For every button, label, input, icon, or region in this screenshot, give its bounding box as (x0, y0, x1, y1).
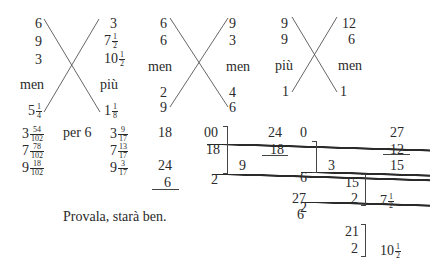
calc2-a-0: 24 (268, 126, 282, 140)
result-right-1: 71317 (110, 143, 128, 160)
cross2-right-1: 3 (229, 34, 236, 48)
cross2-left-3: 2 (160, 86, 167, 100)
calc2-b-0: 0 (300, 126, 307, 140)
cross1-left-3: men (20, 78, 44, 92)
calc2-below-0: 27 (292, 192, 306, 206)
cross3-left-3: 1 (282, 85, 289, 99)
cross2-right-2: men (226, 60, 250, 74)
cross1-right-0: 3 (110, 17, 117, 31)
calc1-bracket (223, 126, 228, 174)
result-left-1: 778102 (22, 143, 44, 160)
cross3-right-2: men (338, 59, 362, 73)
calc3-div2-bracket (361, 224, 366, 257)
calc3-sub-2: 15 (390, 159, 404, 173)
cross2-right-3: 4 (229, 86, 236, 100)
cross3-right-0: 12 (342, 17, 356, 31)
result-right-2: 9317 (110, 160, 128, 177)
calc1-rule (152, 189, 179, 190)
calc2-rule (262, 155, 288, 156)
calc2-quotient: 3 (328, 159, 335, 173)
cross1-left-2: 3 (20, 53, 42, 67)
cross1-right-3: più (100, 78, 118, 92)
calc3-sub-0: 27 (390, 126, 404, 140)
result-left-2: 918102 (22, 160, 44, 177)
cross2-left-2: men (148, 60, 172, 74)
cross2-left-1: 6 (160, 34, 167, 48)
calc3-div2-result: 1012 (380, 243, 401, 260)
cross1-left-1: 9 (20, 35, 42, 49)
cross1-right-1: 712 (104, 33, 118, 50)
calc1-b-0: 00 (204, 126, 218, 140)
cross1-right-bottom: 118 (104, 103, 118, 120)
calc3-div1-result: 712 (380, 193, 394, 210)
calc3-div2-dividend: 21 (345, 225, 359, 239)
cross3-right-1: 6 (348, 33, 355, 47)
cross3-right-3: 1 (340, 85, 347, 99)
cross3-left-0: 9 (281, 17, 288, 31)
calc3-div1-bracket (361, 174, 366, 206)
calc3-div1-divisor: 2 (351, 192, 358, 206)
calc1-a-2: 6 (164, 176, 171, 190)
cross1-left-0: 6 (20, 17, 42, 31)
calc1-quotient: 9 (239, 159, 246, 173)
cross3-left-1: 9 (281, 33, 288, 47)
calc2-below-1: 6 (297, 208, 304, 222)
cross2-left-0: 6 (160, 17, 167, 31)
result-left-0: 354102 (22, 126, 44, 143)
note-text: Provala, starà ben. (63, 210, 166, 224)
calc3-div1-dividend: 15 (345, 176, 359, 190)
cross2-right-0: 9 (229, 17, 236, 31)
calc3-div2-divisor: 2 (351, 242, 358, 256)
cross2-right-4: 6 (229, 101, 236, 115)
cross1-right-2: 1012 (104, 51, 125, 68)
calc1-a-1: 24 (158, 159, 172, 173)
calc2-bracket (312, 141, 317, 173)
per-label: per 6 (63, 126, 91, 140)
calc3-rule (383, 154, 410, 155)
calc1-a-0: 18 (158, 126, 172, 140)
result-right-0: 3917 (110, 126, 128, 143)
cross2-left-4: 9 (160, 101, 167, 115)
cross1-left-bottom: 514 (28, 103, 42, 120)
cross3-left-2: più (275, 59, 293, 73)
